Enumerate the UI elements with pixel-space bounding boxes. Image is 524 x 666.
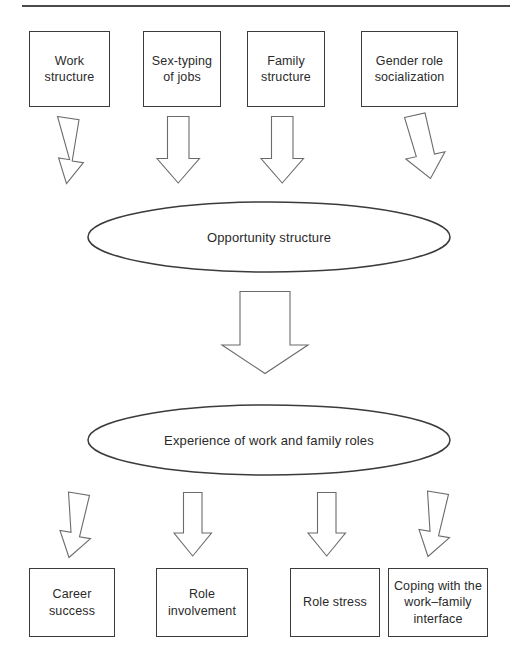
box-career-success-label: Career success [49,586,95,619]
box-sex-typing-of-jobs-label: Sex-typing of jobs [152,53,212,86]
box-career-success[interactable]: Career success [29,568,115,637]
box-gender-role-socialization-label: Gender role socialization [375,53,445,86]
box-gender-role-socialization[interactable]: Gender role socialization [361,31,458,107]
ellipse-opportunity-structure [88,202,450,272]
box-work-structure[interactable]: Work structure [29,31,110,107]
box-sex-typing-of-jobs[interactable]: Sex-typing of jobs [143,31,221,107]
box-role-involvement[interactable]: Role involvement [156,568,248,637]
ellipse-experience-of-roles [88,405,450,475]
arrow-family-structure-icon [261,117,304,184]
arrow-sex-typing-icon [157,117,200,184]
arrow-opportunity-to-experience-icon [222,292,308,374]
arrow-role-involvement-icon [174,493,212,557]
box-family-structure[interactable]: Family structure [247,31,325,107]
figure-flowchart: Work structure Sex-typing of jobs Family… [0,0,524,666]
box-role-stress[interactable]: Role stress [290,568,380,637]
box-role-stress-label: Role stress [303,594,367,611]
box-work-structure-label: Work structure [45,53,95,86]
arrow-work-structure-icon [58,117,84,184]
box-role-involvement-label: Role involvement [168,586,236,619]
arrow-gender-role-icon [405,113,446,179]
arrow-coping-icon [419,491,450,557]
box-coping-work-family-interface-label: Coping with the work–family interface [394,578,482,628]
arrow-role-stress-icon [308,493,346,557]
arrow-career-success-icon [60,492,91,558]
box-family-structure-label: Family structure [261,53,311,86]
box-coping-work-family-interface[interactable]: Coping with the work–family interface [388,568,488,637]
